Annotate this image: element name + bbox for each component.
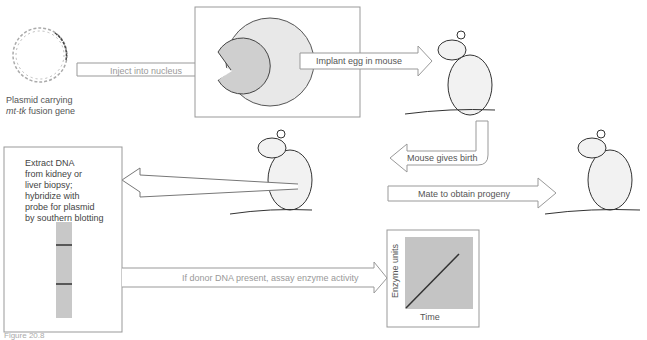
chart-xlabel: Time [420,312,440,322]
extract-text: Extract DNA from kidney or liver biopsy;… [25,158,104,224]
mouse-icon [230,130,312,214]
birth-label: Mouse gives birth [407,153,478,163]
figure-caption: Figure 20.8 [4,331,44,340]
inject-label: Inject into nucleus [110,66,182,76]
assay-label: If donor DNA present, assay enzyme activ… [182,273,359,283]
implant-label: Implant egg in mouse [316,56,402,66]
plasmid-label: Plasmid carrying mt-tk fusion gene [6,95,75,117]
birth-arrow [390,121,488,172]
mouse-icon [545,130,640,214]
gel-lane [56,222,72,318]
chart-ylabel: Enzyme units [390,244,400,298]
plasmid-icon [13,28,67,82]
mate-label: Mate to obtain progeny [418,189,510,199]
